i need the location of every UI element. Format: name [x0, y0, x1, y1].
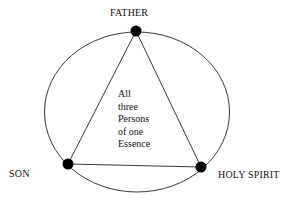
node-father-dot: [131, 26, 142, 37]
edge-son-holy-spirit: [68, 164, 201, 167]
center-line: Persons: [118, 113, 150, 126]
center-line: Essence: [118, 138, 150, 151]
node-holy-spirit-dot: [196, 162, 207, 173]
node-son-dot: [63, 159, 74, 170]
center-line: All: [118, 88, 150, 101]
label-holy-spirit: HOLY SPIRIT: [218, 169, 280, 180]
center-text: All three Persons of one Essence: [118, 88, 150, 151]
center-line: of one: [118, 126, 150, 139]
label-father: FATHER: [110, 7, 148, 18]
center-line: three: [118, 101, 150, 114]
label-son: SON: [9, 168, 30, 179]
